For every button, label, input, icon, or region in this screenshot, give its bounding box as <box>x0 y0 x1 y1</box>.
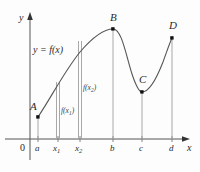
point-label-c: C <box>139 74 146 85</box>
fx1-close: ) <box>72 106 75 115</box>
x2-subscript: 2 <box>79 147 82 154</box>
x-tick-label-c: c <box>139 144 143 153</box>
y-axis <box>27 12 33 160</box>
point-marker-b <box>111 27 114 30</box>
x-tick-label-x1: x1 <box>53 144 60 154</box>
x-tick-label-x2: x2 <box>75 144 82 154</box>
x-axis <box>5 136 190 142</box>
y-axis-label: y <box>19 13 23 23</box>
x-tick-label-d: d <box>169 144 174 153</box>
x-tick-label-b: b <box>110 144 115 153</box>
fx2-close: ) <box>94 83 97 92</box>
x-tick-label-a: a <box>35 144 40 153</box>
point-label-b: B <box>110 12 117 23</box>
function-graph-figure: y x 0 y = f(x) A B C D f(x1) f(x2) a x1 … <box>0 0 200 172</box>
x-axis-label: x <box>187 143 191 153</box>
fx2-base: f(x <box>83 83 91 92</box>
x1-subscript: 1 <box>57 147 60 154</box>
function-equation-label: y = f(x) <box>33 45 63 55</box>
ordinate-value-label-x1: f(x1) <box>61 107 74 116</box>
x-axis-arrowhead <box>182 136 190 142</box>
function-curve <box>38 29 172 117</box>
point-marker-c <box>140 90 143 93</box>
y-axis-arrowhead <box>27 12 33 20</box>
point-label-d: D <box>169 20 177 31</box>
origin-label: 0 <box>20 143 25 153</box>
point-marker-d <box>170 36 173 39</box>
point-marker-a <box>36 115 39 118</box>
ordinate-value-label-x2: f(x2) <box>83 84 96 93</box>
point-label-a: A <box>30 101 37 112</box>
fx1-base: f(x <box>61 106 69 115</box>
